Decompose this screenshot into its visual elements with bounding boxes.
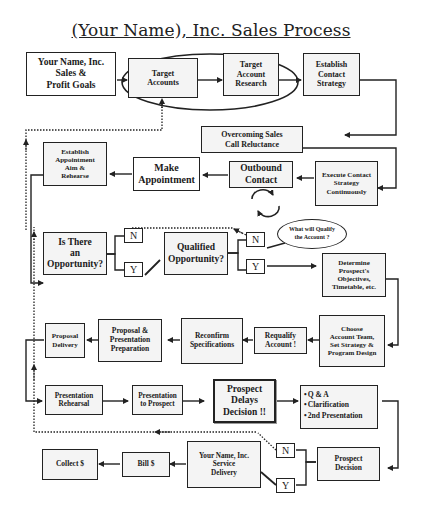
- is-there-opportunity-box: Is There an Opportunity?: [43, 232, 107, 275]
- establish-contact-strategy-box: Establish Contact Strategy: [303, 53, 360, 96]
- delay-option-clarification: Clarification: [304, 400, 374, 410]
- opportunity-no-box: N: [124, 228, 143, 243]
- prospect-delays-decision-box: Prospect Delays Decision !!: [213, 379, 276, 423]
- make-appointment-box: Make Appointment: [133, 157, 200, 191]
- choose-account-team-box: Choose Account Team, Set Strategy & Prog…: [319, 315, 385, 367]
- reconfirm-specifications-box: Reconfirm Specifications: [181, 318, 243, 364]
- proposal-presentation-prep-box: Proposal & Presentation Preparation: [98, 319, 162, 362]
- collect-box: Collect $: [42, 449, 98, 480]
- decision-no-box: N: [276, 443, 295, 458]
- service-delivery-box: Your Name, Inc. Service Delivery: [187, 441, 261, 488]
- circular-arrows-icon: [252, 190, 279, 217]
- target-accounts-box: Target Accounts: [128, 58, 198, 98]
- proposal-delivery-box: Proposal Delivery: [45, 323, 85, 358]
- overcoming-reluctance-box: Overcoming Sales Call Reluctance: [201, 126, 303, 153]
- opportunity-yes-box: Y: [124, 262, 143, 277]
- qualified-no-box: N: [246, 232, 265, 247]
- sales-goals-box: Your Name, Inc. Sales & Profit Goals: [26, 52, 116, 96]
- requalify-account-box: Requalify Account !: [254, 327, 307, 354]
- determine-objectives-box: Determine Prospect's Objectives, Timetab…: [322, 253, 386, 297]
- bill-box: Bill $: [122, 452, 170, 477]
- prospect-decision-box: Prospect Decision: [317, 447, 380, 481]
- presentation-to-prospect-box: Presentation to Prospect: [132, 385, 183, 415]
- delay-option-2nd-presentation: 2nd Presentation: [304, 411, 374, 421]
- target-account-research-box: Target Account Research: [223, 53, 279, 96]
- delay-options-box: Q & A Clarification 2nd Presentation: [300, 385, 378, 429]
- delay-option-qa: Q & A: [304, 390, 374, 400]
- decision-yes-box: Y: [276, 478, 295, 493]
- presentation-rehearsal-box: Presentation Rehearsal: [45, 385, 103, 415]
- qualified-yes-box: Y: [246, 259, 265, 274]
- execute-contact-box: Execute Contact Strategy Continuously: [315, 161, 378, 206]
- outbound-contact-box: Outbound Contact: [229, 161, 293, 188]
- establish-appointment-box: Establish Appointment Aim & Rehearse: [43, 142, 107, 186]
- what-will-qualify-bubble: What will Qualify the Account ?: [277, 219, 347, 249]
- qualified-opportunity-box: Qualified Opportunity?: [164, 232, 228, 275]
